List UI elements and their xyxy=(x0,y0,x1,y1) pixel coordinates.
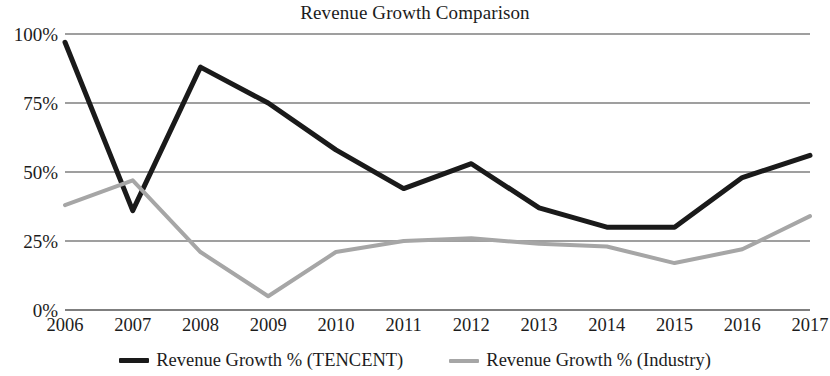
y-tick-label: 25% xyxy=(23,232,58,251)
y-tick-label: 75% xyxy=(23,94,58,113)
legend-label: Revenue Growth % (Industry) xyxy=(486,350,711,371)
x-tick-label: 2011 xyxy=(385,316,421,335)
legend-label: Revenue Growth % (TENCENT) xyxy=(156,350,403,371)
x-tick-label: 2013 xyxy=(521,316,558,335)
legend-item[interactable]: Revenue Growth % (Industry) xyxy=(449,350,711,371)
x-tick-label: 2017 xyxy=(792,316,829,335)
y-tick-label: 50% xyxy=(23,163,58,182)
legend-swatch-icon xyxy=(449,359,479,363)
legend-swatch-icon xyxy=(119,358,149,363)
x-tick-label: 2015 xyxy=(656,316,693,335)
x-tick-label: 2009 xyxy=(250,316,287,335)
revenue-growth-chart: Revenue Growth Comparison 0%25%50%75%100… xyxy=(0,0,830,376)
series-line-industry xyxy=(65,180,810,296)
x-tick-label: 2006 xyxy=(47,316,84,335)
x-tick-label: 2016 xyxy=(724,316,761,335)
y-tick-label: 100% xyxy=(14,25,58,44)
x-tick-label: 2008 xyxy=(182,316,219,335)
series-lines xyxy=(65,42,810,296)
gridlines xyxy=(65,34,810,310)
x-tick-label: 2014 xyxy=(588,316,625,335)
x-tick-label: 2007 xyxy=(114,316,151,335)
series-line-tencent xyxy=(65,42,810,227)
chart-legend: Revenue Growth % (TENCENT)Revenue Growth… xyxy=(0,350,830,371)
x-tick-label: 2012 xyxy=(453,316,490,335)
legend-item[interactable]: Revenue Growth % (TENCENT) xyxy=(119,350,403,371)
x-tick-label: 2010 xyxy=(317,316,354,335)
